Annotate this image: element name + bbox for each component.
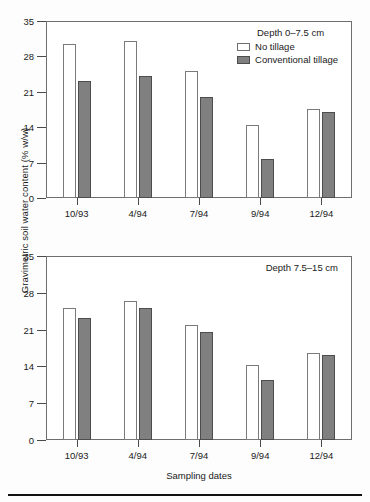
- y-tick: [37, 256, 46, 257]
- y-tick-label: 28: [23, 287, 34, 298]
- x-tick: [260, 440, 261, 447]
- x-tick-label: 10/93: [65, 208, 89, 219]
- footer-rule: [8, 494, 362, 496]
- x-tick-label: 7/94: [190, 450, 209, 461]
- y-tick: [37, 440, 46, 441]
- legend-item-no-tillage: No tillage: [237, 41, 338, 52]
- y-tick-label: 0: [29, 193, 34, 204]
- bar-conventional-tillage: [200, 97, 213, 198]
- y-tick: [37, 330, 46, 331]
- x-tick-label: 7/94: [190, 208, 209, 219]
- bar-conventional-tillage: [139, 308, 152, 440]
- legend-swatch-no-tillage: [237, 43, 250, 51]
- legend-item-conventional-tillage: Conventional tillage: [237, 54, 338, 65]
- bar-no-tillage: [246, 125, 259, 198]
- bar-group: [124, 256, 152, 440]
- x-tick: [321, 198, 322, 205]
- y-tick: [37, 56, 46, 57]
- y-tick-label: 14: [23, 122, 34, 133]
- x-tick: [199, 198, 200, 205]
- bar-conventional-tillage: [261, 159, 274, 198]
- bar-no-tillage: [246, 365, 259, 440]
- bar-group: [307, 256, 335, 440]
- x-tick: [199, 440, 200, 447]
- legend-swatch-conventional-tillage: [237, 56, 250, 64]
- panel-depth-0-7-5: 0714212835 10/934/947/949/9412/94 Depth …: [46, 21, 352, 198]
- x-tick: [260, 198, 261, 205]
- legend: Depth 0–7.5 cm No tillage Conventional t…: [237, 27, 338, 65]
- y-tick-label: 28: [23, 51, 34, 62]
- panel-depth-7-5-15: 0714212835 10/934/947/949/9412/94 Depth …: [46, 256, 352, 440]
- panel-annotation-bottom: Depth 7.5–15 cm: [266, 262, 338, 273]
- bar-group: [63, 256, 91, 440]
- x-tick-label: 4/94: [129, 450, 148, 461]
- bar-group: [185, 21, 213, 198]
- y-tick: [37, 366, 46, 367]
- x-tick: [77, 440, 78, 447]
- y-tick: [37, 92, 46, 93]
- y-tick: [37, 293, 46, 294]
- x-tick: [77, 198, 78, 205]
- y-tick-label: 21: [23, 86, 34, 97]
- legend-label-conventional-tillage: Conventional tillage: [255, 54, 338, 65]
- legend-label-no-tillage: No tillage: [255, 41, 295, 52]
- bar-conventional-tillage: [322, 112, 335, 198]
- y-tick: [37, 21, 46, 22]
- x-axis-title: Sampling dates: [46, 470, 352, 481]
- bar-no-tillage: [307, 353, 320, 440]
- y-tick: [37, 403, 46, 404]
- x-tick-label: 12/94: [310, 450, 334, 461]
- bar-no-tillage: [185, 325, 198, 440]
- x-tick-label: 9/94: [251, 450, 270, 461]
- bar-no-tillage: [185, 71, 198, 198]
- x-tick: [138, 198, 139, 205]
- x-tick-label: 10/93: [65, 450, 89, 461]
- y-tick-label: 7: [29, 157, 34, 168]
- bar-conventional-tillage: [200, 332, 213, 440]
- bar-group: [124, 21, 152, 198]
- bar-no-tillage: [124, 301, 137, 440]
- bar-conventional-tillage: [322, 355, 335, 440]
- bar-conventional-tillage: [78, 81, 91, 198]
- x-tick: [138, 440, 139, 447]
- bar-no-tillage: [124, 41, 137, 198]
- bar-no-tillage: [307, 109, 320, 198]
- y-tick-label: 35: [23, 16, 34, 27]
- bar-no-tillage: [63, 44, 76, 198]
- bar-conventional-tillage: [139, 76, 152, 198]
- x-tick-label: 9/94: [251, 208, 270, 219]
- y-tick-label: 21: [23, 324, 34, 335]
- y-tick-label: 0: [29, 435, 34, 446]
- y-tick: [37, 198, 46, 199]
- bar-group: [185, 256, 213, 440]
- x-tick-label: 12/94: [310, 208, 334, 219]
- bar-group: [246, 256, 274, 440]
- figure: Gravimetric soil water content (% w/w) 0…: [0, 0, 370, 502]
- bar-group: [63, 21, 91, 198]
- x-tick: [321, 440, 322, 447]
- y-tick: [37, 163, 46, 164]
- y-tick-label: 7: [29, 398, 34, 409]
- bar-no-tillage: [63, 308, 76, 440]
- bar-conventional-tillage: [78, 318, 91, 440]
- panel-annotation-top: Depth 0–7.5 cm: [243, 27, 338, 38]
- x-tick-label: 4/94: [129, 208, 148, 219]
- y-tick-label: 14: [23, 361, 34, 372]
- bar-conventional-tillage: [261, 380, 274, 440]
- y-tick-label: 35: [23, 251, 34, 262]
- y-tick: [37, 127, 46, 128]
